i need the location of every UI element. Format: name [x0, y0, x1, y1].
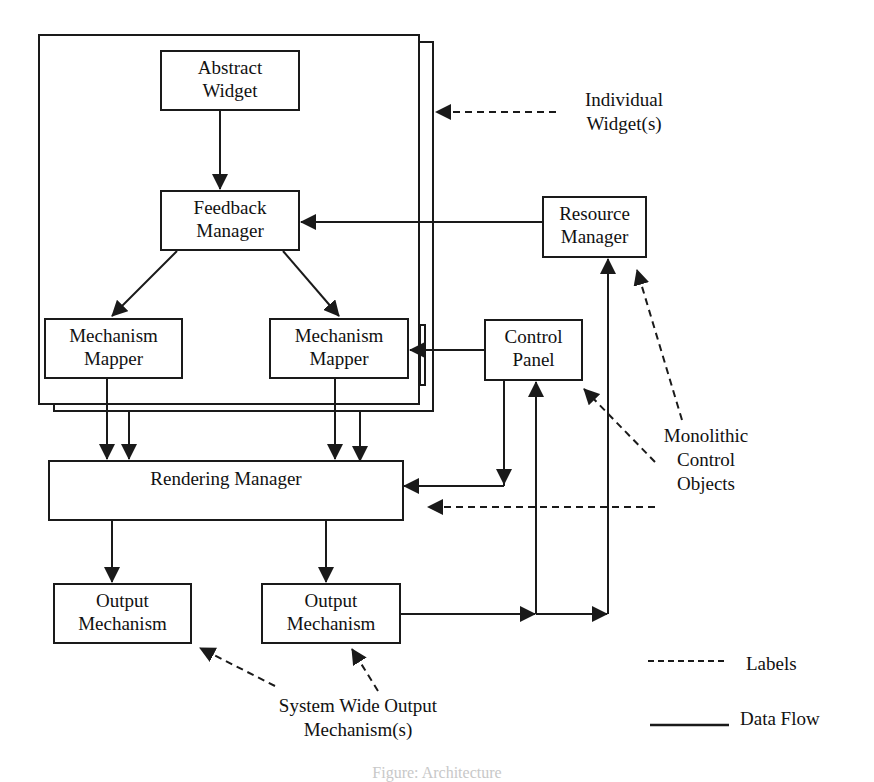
system-wide-line2: Mechanism(s): [238, 718, 478, 742]
figure-caption: Figure: Architecture: [0, 764, 874, 782]
mechanism-mapper-left-line1: Mechanism: [69, 324, 158, 347]
abstract-widget-node: Abstract Widget: [160, 50, 300, 111]
output-mechanism-left-line2: Mechanism: [78, 612, 167, 635]
mechanism-mapper-right-line1: Mechanism: [295, 324, 384, 347]
resource-manager-line2: Manager: [561, 225, 629, 248]
feedback-manager-line2: Manager: [196, 219, 264, 242]
mechanism-mapper-right-line2: Mapper: [309, 347, 368, 370]
mechanism-mapper-left-node: Mechanism Mapper: [44, 318, 183, 379]
rendering-manager-label: Rendering Manager: [150, 467, 301, 490]
output-mechanism-right-line2: Mechanism: [287, 612, 376, 635]
monolithic-line2: Control: [650, 448, 762, 472]
monolithic-line3: Objects: [650, 472, 762, 496]
resource-manager-line1: Resource: [559, 202, 630, 225]
resource-manager-node: Resource Manager: [542, 196, 647, 258]
control-panel-line2: Panel: [512, 348, 554, 371]
system-wide-output-annotation: System Wide Output Mechanism(s): [238, 694, 478, 742]
feedback-manager-node: Feedback Manager: [160, 190, 300, 251]
system-wide-line1: System Wide Output: [238, 694, 478, 718]
output-mechanism-left-line1: Output: [96, 589, 149, 612]
control-panel-line1: Control: [504, 325, 562, 348]
individual-widgets-line2: Widget(s): [568, 112, 680, 136]
legend-dataflow-text: Data Flow: [740, 707, 820, 731]
mechanism-mapper-right-node: Mechanism Mapper: [269, 318, 409, 379]
mechanism-mapper-left-line2: Mapper: [84, 347, 143, 370]
output-mechanism-left-node: Output Mechanism: [53, 583, 192, 644]
monolithic-line1: Monolithic: [650, 424, 762, 448]
output-mechanism-right-line1: Output: [305, 589, 358, 612]
output-mechanism-right-node: Output Mechanism: [261, 583, 401, 644]
legend-labels-text: Labels: [746, 652, 797, 676]
monolithic-control-objects-annotation: Monolithic Control Objects: [650, 424, 762, 496]
individual-widgets-annotation: Individual Widget(s): [568, 88, 680, 136]
abstract-widget-line1: Abstract: [198, 56, 262, 79]
individual-widgets-line1: Individual: [568, 88, 680, 112]
control-panel-node: Control Panel: [484, 319, 583, 381]
rendering-manager-node: Rendering Manager: [48, 460, 404, 521]
abstract-widget-line2: Widget: [202, 79, 257, 102]
feedback-manager-line1: Feedback: [194, 196, 267, 219]
